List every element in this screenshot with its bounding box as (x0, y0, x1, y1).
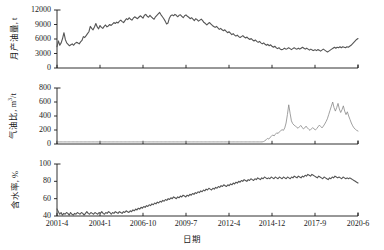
panel2-plot (0, 80, 384, 158)
x-axis-label: 日期 (0, 232, 384, 244)
figure-container: 月产油量, t 030006000900012000 气油比, m3/t 020… (0, 0, 384, 250)
panel-water-cut: 含水率, % 406080100 2001-42004-12006-102009… (0, 158, 384, 250)
panel-oil-production: 月产油量, t 030006000900012000 (0, 0, 384, 80)
x-axis-tick-label: 2020-6 (333, 220, 383, 228)
panel-gas-oil-ratio: 气油比, m3/t 0200400600800 (0, 80, 384, 158)
panel1-plot (0, 0, 384, 80)
